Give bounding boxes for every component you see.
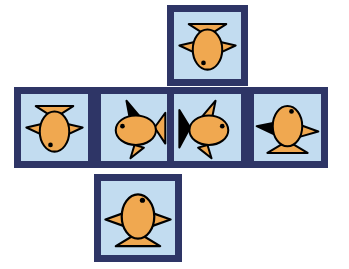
fish-eye-icon	[201, 61, 206, 66]
fish-icon-up	[254, 94, 321, 161]
fish-icon-right	[174, 94, 241, 161]
fish-eye-icon	[120, 124, 125, 129]
fish-eye-icon	[140, 198, 145, 203]
cube-face-middle-4	[247, 87, 328, 168]
fish-eye-icon	[48, 143, 53, 148]
fish-icon-left	[101, 94, 168, 161]
cube-face-bottom	[94, 174, 182, 262]
fish-icon-down	[21, 94, 88, 161]
cube-face-middle-2	[94, 87, 175, 168]
cube-face-middle-1	[14, 87, 95, 168]
fish-icon-up	[101, 181, 175, 255]
cube-face-middle-3	[167, 87, 248, 168]
fish-eye-icon	[220, 124, 225, 129]
fish-eye-icon	[289, 109, 294, 114]
cube-net-figure	[0, 0, 349, 269]
cube-face-top	[167, 5, 248, 86]
fish-icon-down	[174, 12, 241, 79]
